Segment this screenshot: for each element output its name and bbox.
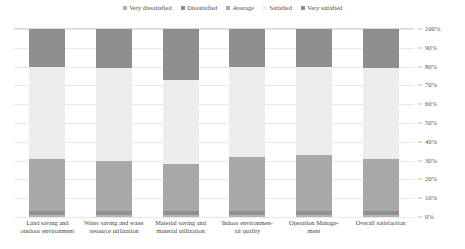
legend-item[interactable]: Very satisfied — [301, 4, 342, 12]
bar-column[interactable] — [214, 29, 280, 217]
x-axis-category-label: Indoor environmen-tal quality — [214, 219, 280, 235]
y-axis-tick-text: 20% — [425, 175, 437, 182]
y-axis: 100%90%80%70%60%50%40%30%20%10%0% — [418, 28, 463, 216]
stacked-bar[interactable] — [363, 29, 399, 217]
tick-mark-icon — [418, 66, 422, 67]
x-axis-category-label: Operation Manage-ment — [281, 219, 347, 235]
tick-mark-icon — [418, 179, 422, 180]
gridline — [14, 217, 414, 218]
legend-swatch-icon — [123, 6, 127, 10]
y-axis-tick-label: 60% — [418, 100, 437, 107]
y-axis-tick-text: 50% — [425, 119, 437, 126]
bar-segment[interactable] — [363, 159, 399, 212]
y-axis-tick-text: 0% — [425, 213, 434, 220]
tick-mark-icon — [418, 47, 422, 48]
tick-mark-icon — [418, 85, 422, 86]
bar-column[interactable] — [148, 29, 214, 217]
bar-segment[interactable] — [96, 68, 132, 160]
bar-segment[interactable] — [29, 29, 65, 67]
x-axis-label-line: tal quality — [214, 227, 280, 235]
bar-segment[interactable] — [296, 67, 332, 155]
bar-segment[interactable] — [363, 29, 399, 68]
y-axis-tick-label: 30% — [418, 156, 437, 163]
y-axis-tick-text: 70% — [425, 81, 437, 88]
y-axis-tick-text: 30% — [425, 156, 437, 163]
legend-swatch-icon — [181, 6, 185, 10]
chart-legend: Very dissatisfiedDissatisfiedAverageSati… — [0, 4, 465, 12]
x-axis-category-label: Water saving and waterresource utilizati… — [81, 219, 147, 235]
y-axis-tick-label: 0% — [418, 213, 434, 220]
x-axis-label-line: resource utilization — [81, 227, 147, 235]
bar-segment[interactable] — [229, 215, 265, 217]
tick-mark-icon — [418, 198, 422, 199]
bar-segment[interactable] — [29, 215, 65, 217]
legend-swatch-icon — [301, 6, 305, 10]
y-axis-tick-label: 20% — [418, 175, 437, 182]
y-axis-tick-label: 100% — [418, 25, 440, 32]
tick-mark-icon — [418, 160, 422, 161]
bar-segment[interactable] — [229, 67, 265, 157]
bar-segment[interactable] — [96, 161, 132, 212]
bar-column[interactable] — [281, 29, 347, 217]
bar-segment[interactable] — [29, 159, 65, 212]
x-axis: Land saving andoutdoor environmentWater … — [14, 219, 414, 249]
x-axis-category-label: Land saving andoutdoor environment — [14, 219, 80, 235]
legend-item-label: Very dissatisfied — [129, 4, 171, 12]
stacked-bar[interactable] — [296, 29, 332, 217]
bar-segment[interactable] — [296, 29, 332, 67]
y-axis-tick-text: 80% — [425, 62, 437, 69]
tick-mark-icon — [418, 216, 422, 217]
bar-segment[interactable] — [163, 29, 199, 80]
x-axis-category-label: Material saving andmaterial utilization — [148, 219, 214, 235]
bar-series-container — [14, 29, 414, 217]
stacked-bar[interactable] — [29, 29, 65, 217]
bar-segment[interactable] — [163, 80, 199, 165]
bar-column[interactable] — [348, 29, 414, 217]
y-axis-tick-text: 60% — [425, 100, 437, 107]
legend-item-label: Dissatisfied — [187, 4, 217, 12]
stacked-bar-chart: Very dissatisfiedDissatisfiedAverageSati… — [0, 0, 465, 249]
x-axis-label-line: material utilization — [148, 227, 214, 235]
stacked-bar[interactable] — [96, 29, 132, 217]
y-axis-tick-text: 90% — [425, 43, 437, 50]
bar-segment[interactable] — [229, 29, 265, 67]
bar-segment[interactable] — [96, 29, 132, 68]
bar-segment[interactable] — [163, 215, 199, 217]
tick-mark-icon — [418, 104, 422, 105]
bar-segment[interactable] — [29, 67, 65, 159]
bar-column[interactable] — [14, 29, 80, 217]
y-axis-tick-label: 90% — [418, 43, 437, 50]
x-axis-label-line: Operation Manage- — [281, 219, 347, 227]
tick-mark-icon — [418, 28, 422, 29]
legend-item[interactable]: Dissatisfied — [181, 4, 218, 12]
bar-segment[interactable] — [163, 164, 199, 211]
legend-item[interactable]: Very dissatisfied — [123, 4, 172, 12]
legend-item[interactable]: Average — [226, 4, 254, 12]
bar-segment[interactable] — [229, 157, 265, 212]
y-axis-tick-text: 40% — [425, 137, 437, 144]
legend-item[interactable]: Satisfied — [263, 4, 292, 12]
x-axis-label-line: Overall satisfaction — [348, 219, 414, 227]
y-axis-tick-text: 10% — [425, 194, 437, 201]
tick-mark-icon — [418, 141, 422, 142]
x-axis-label-line: Water saving and water — [81, 219, 147, 227]
legend-swatch-icon — [226, 6, 230, 10]
x-axis-label-line: Land saving and — [14, 219, 80, 227]
x-axis-label-line: Material saving and — [148, 219, 214, 227]
x-axis-label-line: outdoor environment — [14, 227, 80, 235]
bar-segment[interactable] — [296, 155, 332, 211]
y-axis-tick-label: 80% — [418, 62, 437, 69]
legend-item-label: Average — [233, 4, 254, 12]
stacked-bar[interactable] — [163, 29, 199, 217]
bar-segment[interactable] — [363, 215, 399, 217]
bar-column[interactable] — [81, 29, 147, 217]
tick-mark-icon — [418, 122, 422, 123]
bar-segment[interactable] — [296, 215, 332, 217]
bar-segment[interactable] — [363, 68, 399, 158]
y-axis-tick-text: 100% — [425, 25, 440, 32]
bar-segment[interactable] — [96, 215, 132, 217]
y-axis-tick-label: 50% — [418, 119, 437, 126]
stacked-bar[interactable] — [229, 29, 265, 217]
x-axis-category-label: Overall satisfaction — [348, 219, 414, 227]
y-axis-tick-label: 10% — [418, 194, 437, 201]
